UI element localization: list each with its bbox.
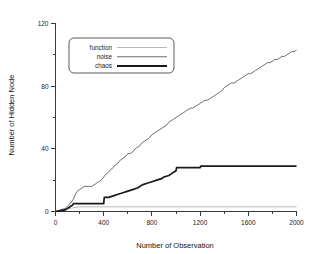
chart-legend: functionnoisechaos: [69, 38, 174, 73]
x-tick-label: 1600: [241, 219, 256, 226]
y-tick-label: 0: [45, 208, 49, 215]
x-tick-label: 800: [146, 219, 157, 226]
x-axis-title: Number of Observation: [136, 241, 214, 250]
x-tick-label: 2000: [289, 219, 304, 226]
x-tick-label: 400: [98, 219, 109, 226]
y-tick-label: 120: [38, 20, 49, 27]
y-axis-title: Number of Hidden Node: [7, 75, 16, 156]
line-chart: 040801200400800120016002000 functionnois…: [0, 0, 309, 254]
y-tick-label: 40: [41, 145, 49, 152]
legend-background: [69, 38, 174, 73]
series-line-noise: [56, 50, 297, 211]
y-tick-label: 80: [41, 83, 49, 90]
series-line-function: [56, 207, 297, 212]
x-tick-label: 1200: [193, 219, 208, 226]
chart-figure: 040801200400800120016002000 functionnois…: [0, 0, 309, 254]
legend-label-noise: noise: [97, 53, 113, 60]
data-series: [56, 50, 297, 211]
legend-label-chaos: chaos: [95, 62, 112, 69]
x-tick-label: 0: [54, 219, 58, 226]
legend-label-function: function: [90, 44, 113, 51]
series-line-chaos: [56, 166, 297, 211]
